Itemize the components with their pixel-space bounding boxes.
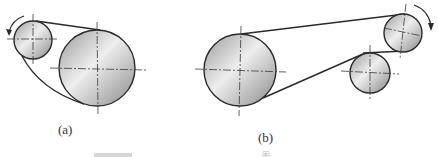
caption-a: (a) xyxy=(58,122,72,138)
belt-lower-b xyxy=(263,54,363,98)
belt-top-b xyxy=(241,14,405,34)
panel-b xyxy=(195,4,434,116)
footer-mark: 图 xyxy=(262,149,270,157)
belt-drive-figure: (a) (b) 图 xyxy=(0,0,438,157)
caption-b: (b) xyxy=(258,130,273,146)
gray-bar xyxy=(94,153,132,157)
panel-a xyxy=(6,14,146,114)
